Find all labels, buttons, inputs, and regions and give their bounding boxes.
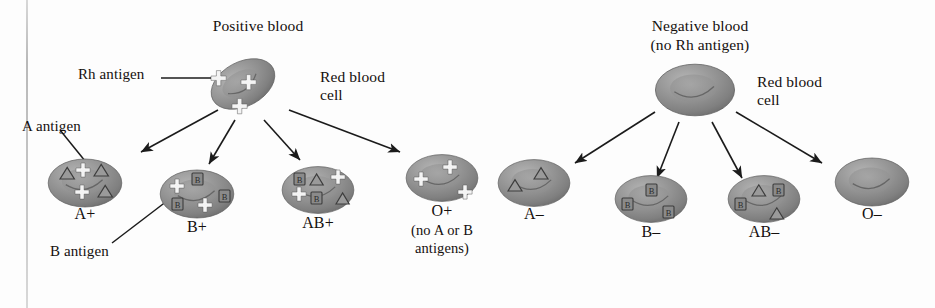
parent-red-blood-cell-negative (655, 64, 734, 116)
negative-blood-title-line2: (no Rh antigen) (651, 36, 750, 53)
rh-antigen-annotation: Rh antigen (78, 66, 144, 83)
plus-marker-icon (292, 170, 345, 201)
arrow-icon (575, 112, 822, 178)
blood-type-label-a-minus: A– (524, 205, 544, 223)
a-antigen-annotation: A antigen (22, 118, 81, 135)
positive-blood-title: Positive blood (213, 17, 304, 34)
plus-marker-icon (75, 163, 90, 199)
o-plus-note-line1: (no A or B (411, 222, 473, 238)
red-blood-cell-label-line2: cell (320, 86, 343, 103)
cell-o-minus (835, 158, 909, 206)
b-antigen-annotation: B antigen (50, 243, 109, 260)
red-blood-cell-label-b-line1: Red blood (757, 73, 822, 90)
svg-text:B: B (625, 200, 631, 210)
cell-o-plus (406, 155, 478, 202)
blood-type-label-b-plus: B+ (187, 218, 207, 236)
red-blood-cell-label-line1: Red blood (320, 68, 385, 85)
cell-a-minus (498, 160, 570, 207)
triangle-a-antigen-icon (60, 164, 112, 197)
blood-type-label-o-plus: O+ (432, 202, 453, 220)
cell-b-minus (615, 176, 687, 223)
arrow-icon (141, 110, 400, 164)
blood-type-label-ab-plus: AB+ (302, 214, 334, 232)
red-blood-cell-label-b-line2: cell (757, 91, 780, 108)
cell-ab-minus (728, 176, 800, 223)
diagram-canvas: B B B B B (0, 0, 935, 308)
plus-marker-icon (170, 179, 212, 212)
o-plus-note-line2: antigens) (415, 240, 469, 256)
plus-marker-icon (211, 71, 256, 114)
plus-marker-icon (414, 160, 472, 199)
cell-b-plus (160, 170, 234, 218)
blood-type-label-a-plus: A+ (75, 205, 96, 223)
svg-text:B: B (666, 208, 672, 218)
triangle-a-antigen-icon (752, 185, 784, 219)
cell-a-plus (48, 159, 122, 207)
blood-type-label-ab-minus: AB– (749, 223, 780, 241)
svg-text:B: B (297, 175, 303, 185)
svg-text:B: B (175, 200, 181, 210)
svg-text:B: B (314, 194, 320, 204)
svg-text:B: B (649, 186, 655, 196)
svg-text:B: B (738, 200, 744, 210)
leader-line-icon (112, 201, 167, 243)
blood-type-antigen-figure: B B B B B (0, 0, 935, 308)
blood-type-label-b-minus: B– (642, 223, 661, 241)
square-b-antigen-icon: B B B (172, 173, 230, 210)
triangle-a-antigen-icon (310, 174, 349, 204)
svg-text:B: B (222, 192, 228, 202)
svg-text:B: B (776, 186, 782, 196)
cell-ab-plus (282, 167, 354, 214)
leader-line-icon (60, 130, 94, 172)
blood-type-label-o-minus: O– (862, 205, 882, 223)
square-b-antigen-icon: B B (294, 173, 322, 204)
left-margin-rule (26, 0, 28, 308)
square-b-antigen-icon: B B (735, 184, 784, 210)
parent-red-blood-cell-positive (203, 48, 284, 119)
square-b-antigen-icon: B B B (622, 184, 674, 218)
triangle-a-antigen-icon (508, 168, 548, 191)
svg-text:B: B (195, 175, 201, 185)
negative-group: B B B B B (498, 64, 909, 222)
negative-blood-title-line1: Negative blood (652, 17, 749, 34)
